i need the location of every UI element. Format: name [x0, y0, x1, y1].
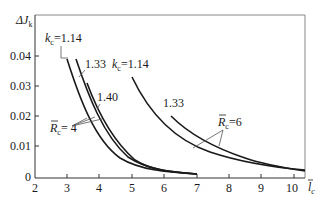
x-tick-label: 10: [286, 181, 298, 195]
curve-R4-k133: [76, 59, 197, 174]
y-tick-label: 0.04: [10, 49, 31, 63]
leader-k114-left: [61, 46, 68, 58]
x-tick-label: 7: [194, 181, 200, 195]
y-tick-label: 0: [25, 170, 31, 184]
x-tick-label: 2: [32, 181, 38, 195]
y-tick-labels: 0.04 0.03 0.02 0.01 0: [10, 49, 31, 184]
y-tick-label: 0.03: [10, 79, 31, 93]
y-tick-label: 0.01: [10, 139, 31, 153]
x-tick-label: 4: [96, 181, 102, 195]
x-tick-label: 5: [129, 181, 135, 195]
y-axis-title: ΔJk: [15, 13, 32, 29]
curves-R4: [67, 59, 197, 174]
label-140-left: 1.40: [97, 90, 118, 104]
label-k114-right: kc=1.14: [112, 57, 149, 73]
label-k114-left: kc=1.14: [45, 31, 82, 47]
leader-R6: [193, 130, 223, 148]
label-R6: Rc=6: [217, 115, 242, 131]
x-tick-label: 6: [161, 181, 167, 195]
x-tick-label: 9: [258, 181, 264, 195]
label-133-left: 1.33: [85, 57, 106, 71]
label-R4: Rc= 4: [49, 121, 77, 137]
x-ticks: [67, 174, 294, 178]
y-ticks: [35, 56, 39, 146]
x-tick-label: 8: [226, 181, 232, 195]
x-axis-title: lc: [308, 180, 315, 196]
label-133-right: 1.33: [163, 96, 184, 110]
y-tick-label: 0.02: [10, 109, 31, 123]
x-tick-labels: 2 3 4 5 6 7 8 9 10: [32, 181, 298, 195]
x-tick-label: 3: [64, 181, 70, 195]
annotations-left: kc=1.14 1.33 1.40 Rc= 4: [45, 31, 118, 137]
line-chart: 0.04 0.03 0.02 0.01 0 2 3 4 5 6 7 8 9 10…: [0, 0, 326, 201]
